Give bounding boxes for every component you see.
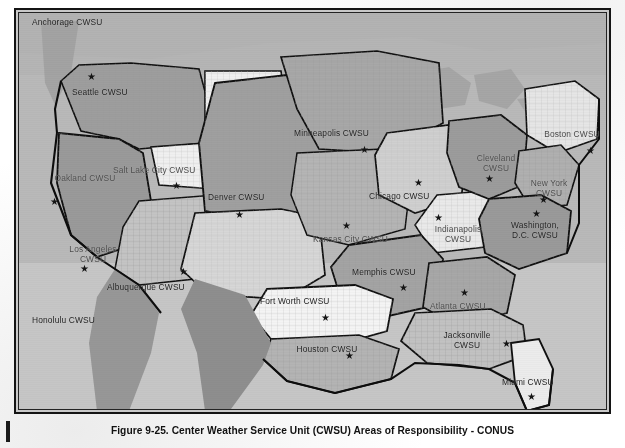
cwsu-map: Anchorage CWSUSeattle CWSU★Oakland CWSU★… [19, 13, 606, 409]
map-graphic [19, 13, 606, 409]
document-page: Anchorage CWSUSeattle CWSU★Oakland CWSU★… [0, 0, 625, 448]
figure-frame: Anchorage CWSUSeattle CWSU★Oakland CWSU★… [14, 8, 611, 414]
figure-frame-inner: Anchorage CWSUSeattle CWSU★Oakland CWSU★… [18, 12, 607, 410]
figure-caption: Figure 9-25. Center Weather Service Unit… [0, 425, 625, 436]
